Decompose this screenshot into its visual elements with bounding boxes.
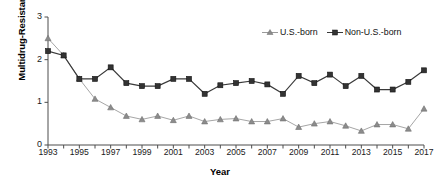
legend-triangle-icon	[262, 28, 278, 37]
data-point-square	[77, 76, 82, 81]
data-point-triangle	[108, 104, 114, 109]
data-point-square	[296, 73, 301, 78]
data-point-square	[202, 91, 207, 96]
data-point-square	[140, 84, 145, 89]
data-point-square	[171, 76, 176, 81]
data-point-square	[328, 72, 333, 77]
chart-figure: Multidrug-Resistant (%) Year 0123 199319…	[0, 0, 440, 193]
data-point-square	[312, 81, 317, 86]
data-point-square	[218, 83, 223, 88]
data-point-square	[265, 82, 270, 87]
data-point-square	[155, 84, 160, 89]
data-point-triangle	[421, 106, 427, 111]
data-point-square	[93, 76, 98, 81]
series-line-non-u-s-born	[48, 51, 424, 94]
data-point-triangle	[155, 113, 161, 118]
data-point-square	[108, 65, 113, 70]
data-point-square	[375, 87, 380, 92]
legend-item-us-born: U.S.-born	[262, 27, 318, 37]
data-point-triangle	[123, 113, 129, 118]
data-point-square	[234, 81, 239, 86]
data-point-square	[124, 81, 129, 86]
data-point-triangle	[327, 119, 333, 124]
data-point-triangle	[280, 116, 286, 121]
data-point-square	[46, 49, 51, 54]
data-point-triangle	[45, 35, 51, 40]
data-point-square	[406, 79, 411, 84]
data-point-square	[343, 84, 348, 89]
data-point-square	[390, 87, 395, 92]
data-point-square	[249, 79, 254, 84]
data-point-square	[281, 91, 286, 96]
legend-label-us-born: U.S.-born	[280, 27, 318, 37]
chart-legend: U.S.-born Non-U.S.-born	[262, 27, 401, 37]
data-point-square	[187, 76, 192, 81]
data-point-triangle	[186, 113, 192, 118]
data-point-square	[422, 68, 427, 73]
legend-item-non-us-born: Non-U.S.-born	[327, 27, 402, 37]
data-point-square	[61, 53, 66, 58]
legend-square-icon	[327, 28, 343, 37]
data-point-square	[359, 73, 364, 78]
legend-label-non-us-born: Non-U.S.-born	[345, 27, 402, 37]
